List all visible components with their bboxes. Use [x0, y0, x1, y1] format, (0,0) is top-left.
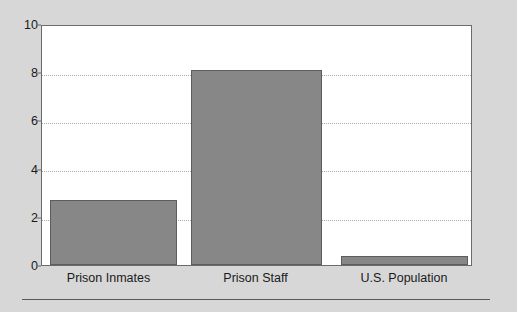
bar-prison-inmates[interactable] — [50, 200, 177, 265]
y-axis-tick-label-4: 4 — [8, 163, 38, 176]
y-axis-tick-label-2: 2 — [8, 212, 38, 225]
x-axis-label-prison-inmates: Prison Inmates — [41, 272, 176, 286]
plot-area — [41, 25, 472, 266]
y-axis-tick-label-6: 6 — [8, 115, 38, 128]
y-axis-tick-label-0: 0 — [8, 260, 38, 273]
bar-us-population[interactable] — [341, 256, 468, 265]
chart-figure: 0 2 4 6 8 10 Prison Inmates Prison Staff… — [0, 0, 517, 312]
bar-prison-staff[interactable] — [191, 70, 322, 265]
x-axis-label-prison-staff: Prison Staff — [190, 272, 321, 286]
bars-layer — [42, 26, 471, 265]
bottom-rule-divider — [22, 299, 490, 300]
y-axis-tick-label-8: 8 — [8, 67, 38, 80]
y-axis-tick-label-10: 10 — [8, 19, 38, 32]
x-axis-label-us-population: U.S. Population — [340, 272, 468, 286]
